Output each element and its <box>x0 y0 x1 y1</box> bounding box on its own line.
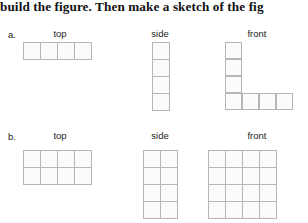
column-label-b-top: top <box>36 130 84 141</box>
grid-cell <box>161 202 178 219</box>
grid-cell-empty <box>242 76 259 93</box>
grid-cell <box>242 93 259 110</box>
grid-cell <box>75 151 92 168</box>
column-label-a-side: side <box>136 28 184 39</box>
grid-cell <box>209 151 226 168</box>
figure-b-top-view <box>23 150 92 185</box>
grid-cell <box>144 202 161 219</box>
grid-cell <box>161 168 178 185</box>
instruction-text: build the figure. Then make a sketch of … <box>0 0 308 15</box>
grid-cell <box>225 93 242 110</box>
grid-cell <box>24 151 41 168</box>
grid-cell <box>225 59 242 76</box>
grid-cell-empty <box>242 59 259 76</box>
grid-cell-empty <box>259 42 276 59</box>
grid-cell <box>243 151 260 168</box>
grid-cell <box>58 43 75 60</box>
grid-cell <box>41 43 58 60</box>
row-label-a: a. <box>8 29 16 40</box>
grid-cell <box>161 185 178 202</box>
figure-a-front-view <box>225 42 293 110</box>
figure-a-top-view <box>23 42 92 60</box>
grid-cell <box>161 151 178 168</box>
grid-cell <box>276 93 293 110</box>
grid-cell <box>153 94 170 111</box>
grid-cell <box>209 185 226 202</box>
grid-cell <box>153 60 170 77</box>
grid-cell <box>153 43 170 60</box>
grid-cell <box>24 43 41 60</box>
grid-cell <box>58 168 75 185</box>
row-label-b: b. <box>8 131 16 142</box>
grid-cell <box>209 168 226 185</box>
grid-cell-empty <box>259 59 276 76</box>
grid-cell <box>153 77 170 94</box>
grid-cell-empty <box>276 42 293 59</box>
grid-cell <box>75 168 92 185</box>
grid-cell <box>260 185 277 202</box>
grid-cell-empty <box>276 76 293 93</box>
grid-cell <box>225 42 242 59</box>
column-label-b-front: front <box>233 130 281 141</box>
grid-cell <box>144 168 161 185</box>
grid-cell-empty <box>276 59 293 76</box>
grid-cell <box>243 185 260 202</box>
grid-cell <box>226 168 243 185</box>
grid-cell-empty <box>242 42 259 59</box>
grid-cell <box>144 151 161 168</box>
grid-cell <box>243 168 260 185</box>
figure-b-front-view <box>208 150 277 219</box>
grid-cell <box>243 202 260 219</box>
grid-cell <box>260 151 277 168</box>
figure-a-side-view <box>152 42 170 111</box>
grid-cell <box>144 185 161 202</box>
grid-cell <box>58 151 75 168</box>
grid-cell <box>226 185 243 202</box>
grid-cell <box>41 168 58 185</box>
grid-cell <box>260 168 277 185</box>
grid-cell-empty <box>259 76 276 93</box>
figure-b-side-view <box>143 150 178 219</box>
grid-cell <box>75 43 92 60</box>
column-label-a-top: top <box>36 28 84 39</box>
column-label-a-front: front <box>233 28 281 39</box>
grid-cell <box>209 202 226 219</box>
column-label-b-side: side <box>136 130 184 141</box>
grid-cell <box>24 168 41 185</box>
grid-cell <box>225 76 242 93</box>
grid-cell <box>41 151 58 168</box>
grid-cell <box>260 202 277 219</box>
grid-cell <box>259 93 276 110</box>
grid-cell <box>226 151 243 168</box>
grid-cell <box>226 202 243 219</box>
